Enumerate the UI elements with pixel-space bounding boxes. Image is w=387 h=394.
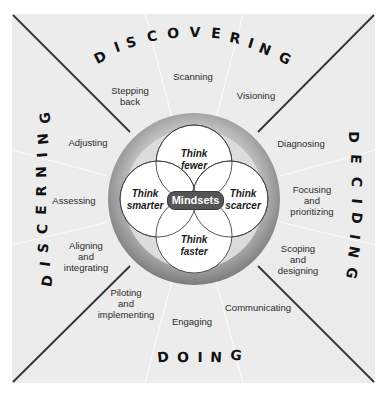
item-focusing-and-prioritizing: Focusing and prioritizing [290, 184, 333, 217]
item-line: designing [278, 265, 319, 276]
item-line: prioritizing [290, 206, 333, 217]
item-scoping-and-designing: Scoping and designing [278, 243, 319, 276]
petal-label-line: Think [225, 188, 261, 200]
title-letter: G [229, 346, 242, 363]
petal-label-line: Think [180, 234, 207, 246]
petal-label-line: scarcer [225, 200, 261, 212]
item-line: integrating [64, 262, 108, 273]
item-line: and [278, 254, 319, 265]
petal-label-line: Think [127, 188, 164, 200]
item-line: Piloting [98, 287, 155, 298]
item-line: Scanning [173, 71, 213, 82]
item-line: and [98, 298, 155, 309]
item-line: Visioning [237, 90, 275, 101]
title-letter: G [36, 111, 53, 125]
petal-label-line: faster [180, 246, 207, 258]
title-letter: R [33, 186, 49, 197]
item-aligning-and-integrating: Aligning and integrating [64, 240, 108, 273]
item-line: and [290, 195, 333, 206]
petal-think-faster: Think faster [180, 234, 207, 258]
item-line: Engaging [172, 316, 212, 327]
title-letter: V [189, 24, 200, 40]
title-letter: I [34, 152, 50, 158]
title-letter: E [33, 205, 49, 215]
item-line: Focusing [290, 184, 333, 195]
title-letter: N [33, 166, 49, 178]
title-letter: C [34, 223, 51, 234]
title-letter: D [346, 131, 362, 143]
item-piloting-and-implementing: Piloting and implementing [98, 287, 155, 320]
item-assessing: Assessing [52, 195, 95, 206]
title-letter: D [38, 274, 56, 288]
item-line: Stepping [111, 85, 149, 96]
item-line: Diagnosing [277, 138, 325, 149]
item-communicating: Communicating [225, 302, 291, 313]
title-letter: O [177, 349, 189, 365]
mindsets-diagram: Mindsets Think fewer Think smarter Think… [0, 0, 387, 394]
item-line: and [64, 251, 108, 262]
title-letter: I [197, 349, 202, 365]
item-line: Communicating [225, 302, 291, 313]
item-visioning: Visioning [237, 90, 275, 101]
title-letter: D [348, 211, 365, 225]
petal-label-line: smarter [127, 200, 164, 212]
petal-think-smarter: Think smarter [127, 188, 164, 212]
title-letter: E [210, 25, 221, 42]
title-letter: N [34, 132, 51, 145]
title-letter: D [156, 348, 169, 365]
item-stepping-back: Stepping back [111, 85, 149, 107]
item-line: Scoping [278, 243, 319, 254]
item-engaging: Engaging [172, 316, 212, 327]
item-line: implementing [98, 309, 155, 320]
title-letter: E [348, 154, 364, 164]
item-adjusting: Adjusting [68, 137, 107, 148]
title-letter: O [167, 25, 180, 42]
item-line: Assessing [52, 195, 95, 206]
item-line: Aligning [64, 240, 108, 251]
petal-label-line: fewer [181, 160, 208, 172]
mindsets-badge: Mindsets [167, 191, 224, 210]
item-diagnosing: Diagnosing [277, 138, 325, 149]
petal-think-scarcer: Think scarcer [225, 188, 261, 212]
item-scanning: Scanning [173, 71, 213, 82]
title-letter: N [210, 349, 223, 366]
title-letter: C [349, 176, 366, 187]
item-line: back [111, 96, 149, 107]
title-letter: S [35, 242, 52, 254]
petal-think-fewer: Think fewer [181, 148, 208, 172]
item-line: Adjusting [68, 137, 107, 148]
petal-label-line: Think [181, 148, 208, 160]
